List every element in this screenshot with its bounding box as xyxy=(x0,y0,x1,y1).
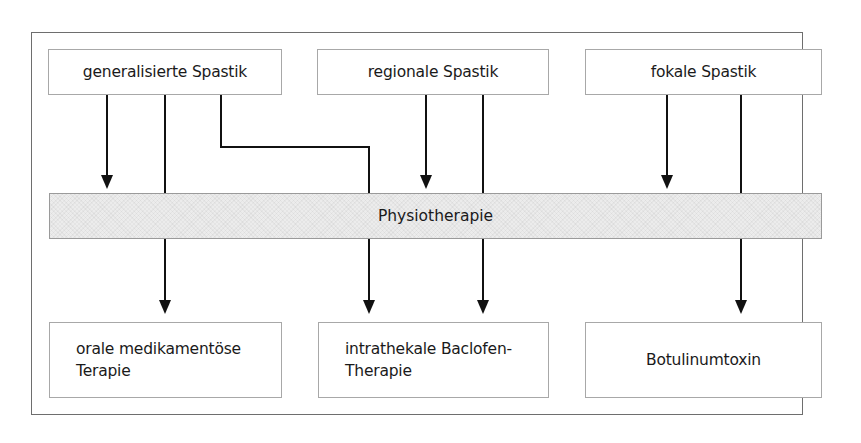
node-orale-medikamentoese-therapie: orale medikamentöse Terapie xyxy=(49,322,282,398)
node-label: regionale Spastik xyxy=(368,63,499,81)
node-label-line1: orale medikamentöse xyxy=(76,338,241,360)
bottom-row: orale medikamentöse Terapie intrathekale… xyxy=(0,221,861,401)
node-generalisierte-spastik: generalisierte Spastik xyxy=(48,49,282,95)
node-label-line1: Botulinumtoxin xyxy=(646,349,761,371)
node-label: generalisierte Spastik xyxy=(83,63,247,81)
node-label-line1: intrathekale Baclofen- xyxy=(345,338,512,360)
node-label-line2: Terapie xyxy=(76,360,241,382)
node-regionale-spastik: regionale Spastik xyxy=(317,49,549,95)
node-label-line2: Therapie xyxy=(345,360,512,382)
node-botulinumtoxin: Botulinumtoxin xyxy=(585,322,822,398)
node-intrathekale-baclofen-therapie: intrathekale Baclofen- Therapie xyxy=(318,322,549,398)
node-label: fokale Spastik xyxy=(651,63,757,81)
node-fokale-spastik: fokale Spastik xyxy=(585,49,822,95)
